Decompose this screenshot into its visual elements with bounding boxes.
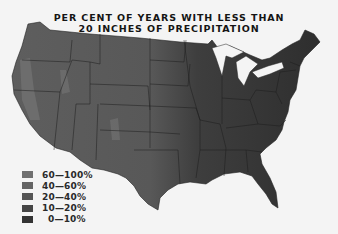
- legend-swatch: [22, 171, 33, 178]
- legend-label: 20—40%: [42, 192, 86, 202]
- map-title: PER CENT OF YEARS WITH LESS THAN 20 INCH…: [0, 12, 338, 34]
- legend-swatch: [22, 193, 33, 200]
- map-title-line-1: PER CENT OF YEARS WITH LESS THAN: [0, 12, 338, 23]
- legend-label: 0—10%: [42, 214, 86, 224]
- legend-label: 10—20%: [42, 203, 86, 213]
- legend-item-60-100: 60—100%: [22, 169, 93, 180]
- legend-item-20-40: 20—40%: [22, 191, 93, 202]
- legend-swatch: [22, 182, 33, 189]
- legend-label: 40—60%: [42, 181, 86, 191]
- legend-label: 60—100%: [42, 170, 93, 180]
- legend-item-0-10: 0—10%: [22, 214, 93, 225]
- map-legend: 60—100% 40—60% 20—40% 10—20% 0—10%: [22, 169, 93, 225]
- map-title-line-2: 20 INCHES OF PRECIPITATION: [0, 23, 338, 34]
- legend-item-10-20: 10—20%: [22, 203, 93, 214]
- legend-swatch: [22, 205, 33, 212]
- legend-swatch: [22, 216, 33, 223]
- legend-item-40-60: 40—60%: [22, 180, 93, 191]
